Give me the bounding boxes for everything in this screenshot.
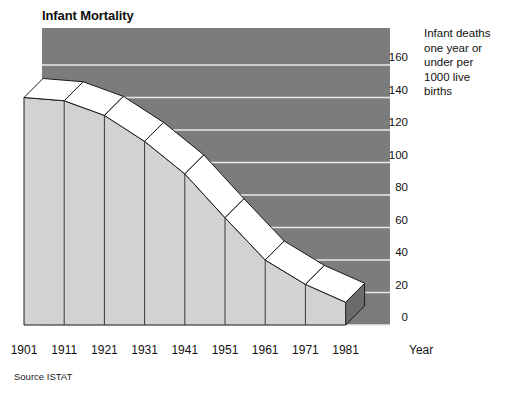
y-axis-title-line: Infant deaths xyxy=(424,26,513,41)
y-axis-tick-label: 120 xyxy=(378,116,408,128)
infant-mortality-chart-figure: Infant Mortality 020406080100120140160 1… xyxy=(0,0,513,402)
x-axis-tick-label: 1971 xyxy=(283,343,327,357)
y-axis-title-line: births xyxy=(424,84,513,99)
y-axis-title-legend: Infant deathsone year orunder per1000 li… xyxy=(424,26,513,99)
y-axis-tick-label: 80 xyxy=(378,181,408,193)
x-axis-tick-label: 1921 xyxy=(82,343,126,357)
x-axis-tick-label: 1981 xyxy=(324,343,368,357)
y-axis-tick-label: 20 xyxy=(378,279,408,291)
y-axis-tick-label: 60 xyxy=(378,214,408,226)
x-axis-title: Year xyxy=(409,343,433,357)
source-note: Source ISTAT xyxy=(14,371,72,382)
y-axis-title-line: under per xyxy=(424,55,513,70)
x-axis-tick-label: 1961 xyxy=(243,343,287,357)
y-axis-tick-label: 100 xyxy=(378,149,408,161)
x-axis-tick-label: 1931 xyxy=(123,343,167,357)
y-axis-tick-label: 0 xyxy=(378,311,408,323)
x-axis-tick-label: 1941 xyxy=(163,343,207,357)
x-axis-tick-label: 1901 xyxy=(2,343,46,357)
y-axis-title-line: one year or xyxy=(424,41,513,56)
x-axis-tick-label: 1951 xyxy=(203,343,247,357)
x-axis-tick-label: 1911 xyxy=(42,343,86,357)
y-axis-tick-label: 160 xyxy=(378,51,408,63)
y-axis-title-line: 1000 live xyxy=(424,70,513,85)
y-axis-tick-label: 140 xyxy=(378,84,408,96)
y-axis-tick-label: 40 xyxy=(378,246,408,258)
